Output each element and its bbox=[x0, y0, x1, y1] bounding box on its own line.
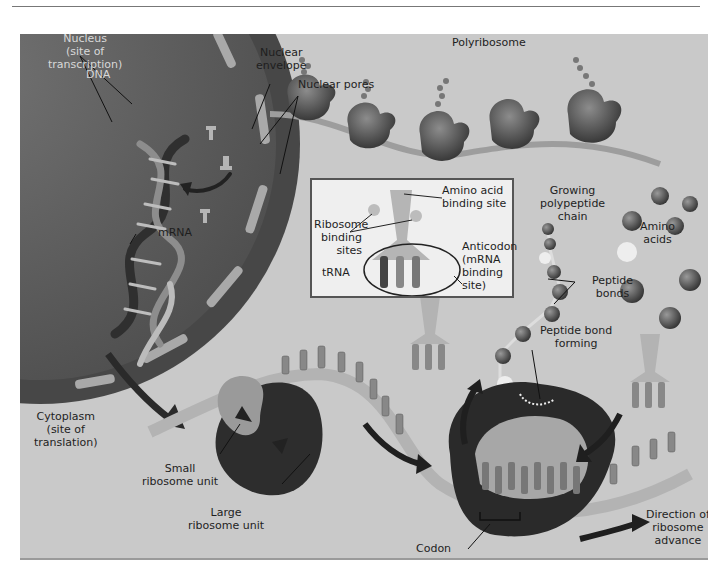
ribosome-left bbox=[216, 376, 323, 495]
label-mrna: mRNA bbox=[158, 226, 192, 239]
label-growing-polypeptide-chain: Growing polypeptide chain bbox=[540, 184, 605, 223]
polyribosome bbox=[270, 57, 660, 164]
label-ribosome-binding-sites: Ribosome binding sites bbox=[314, 218, 362, 257]
label-anticodon: Anticodon (mRNA binding site) bbox=[462, 240, 517, 292]
label-dna: DNA bbox=[86, 68, 110, 81]
label-direction-of-ribosome-advance: Direction of ribosome advance bbox=[646, 508, 708, 547]
label-amino-acids: Amino acids bbox=[640, 220, 675, 246]
header-divider bbox=[12, 6, 700, 7]
label-codon: Codon bbox=[416, 542, 451, 555]
label-small-ribosome-unit: Small ribosome unit bbox=[142, 462, 218, 488]
label-polyribosome: Polyribosome bbox=[452, 36, 526, 49]
label-peptide-bonds: Peptide bonds bbox=[592, 274, 633, 300]
label-nuclear-pores: Nuclear pores bbox=[298, 78, 374, 91]
label-trna: tRNA bbox=[322, 266, 350, 279]
label-nuclear-envelope: Nuclear envelope bbox=[256, 46, 307, 72]
protein-synthesis-figure: Nucleus (site of transcription) DNA mRNA… bbox=[20, 34, 708, 560]
label-cytoplasm: Cytoplasm (site of translation) bbox=[34, 410, 97, 449]
trna-inset: Amino acid binding site Ribosome binding… bbox=[310, 178, 514, 298]
label-large-ribosome-unit: Large ribosome unit bbox=[188, 506, 264, 532]
label-nucleus: Nucleus (site of transcription) bbox=[48, 34, 122, 71]
label-peptide-bond-forming: Peptide bond forming bbox=[540, 324, 612, 350]
amino-acids bbox=[617, 187, 701, 329]
label-amino-acid-binding-site: Amino acid binding site bbox=[442, 184, 506, 210]
page-header-caption bbox=[12, 0, 692, 3]
